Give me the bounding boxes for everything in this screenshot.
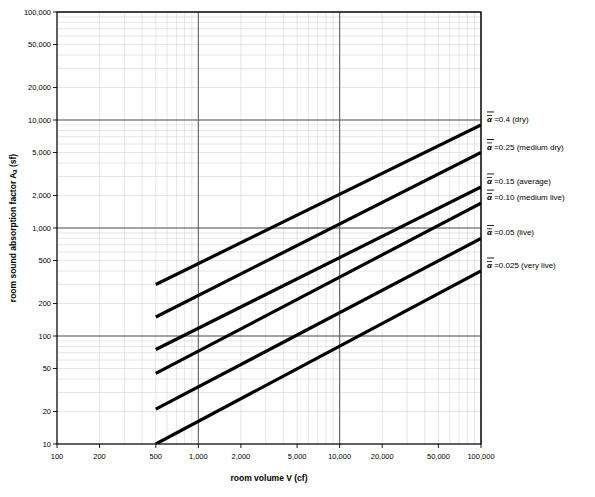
y-tick-label: 50,000 — [28, 40, 51, 49]
y-tick-label: 10 — [43, 440, 51, 449]
y-tick-label: 200 — [38, 299, 51, 308]
x-tick-label: 20,000 — [371, 452, 394, 461]
series-label-alpha-0.25-medium-dry: α =0.25 (medium dry) — [487, 140, 564, 152]
svg-text:α =0.4 (dry): α =0.4 (dry) — [487, 115, 529, 124]
y-axis-title: room sound absorption factor Aₐ (sf) — [8, 154, 18, 303]
svg-text:α =0.05 (live): α =0.05 (live) — [487, 228, 534, 237]
chart-container: 1002005001,0002,0005,00010,00020,00050,0… — [0, 0, 595, 497]
x-tick-label: 500 — [150, 452, 163, 461]
y-tick-label: 20,000 — [28, 83, 51, 92]
y-tick-label: 50 — [43, 364, 51, 373]
series-label-alpha-0.10-medium-live: α =0.10 (medium live) — [487, 190, 565, 202]
series-label-alpha-0.05-live: α =0.05 (live) — [487, 225, 534, 237]
x-tick-label: 2,000 — [231, 452, 250, 461]
x-tick-label: 200 — [93, 452, 106, 461]
x-tick-label: 100 — [51, 452, 64, 461]
svg-text:α =0.025 (very live): α =0.025 (very live) — [487, 261, 556, 270]
y-tick-label: 100 — [38, 332, 51, 341]
y-tick-label: 10,000 — [28, 116, 51, 125]
y-tick-label: 5,000 — [32, 148, 51, 157]
svg-text:α =0.15 (average): α =0.15 (average) — [487, 177, 551, 186]
x-tick-label: 10,000 — [328, 452, 351, 461]
absorption-factor-chart: 1002005001,0002,0005,00010,00020,00050,0… — [0, 0, 595, 497]
x-tick-label: 5,000 — [288, 452, 307, 461]
y-axis-ticks: 1020501002005001,0002,0005,00010,00020,0… — [24, 8, 57, 449]
svg-text:α =0.25 (medium dry): α =0.25 (medium dry) — [487, 143, 564, 152]
series-legend-labels: α =0.4 (dry)α =0.25 (medium dry)α =0.15 … — [487, 112, 565, 270]
series-label-alpha-0.4-dry: α =0.4 (dry) — [487, 112, 529, 124]
y-tick-label: 500 — [38, 256, 51, 265]
x-tick-label: 100,000 — [467, 452, 494, 461]
x-axis-ticks: 1002005001,0002,0005,00010,00020,00050,0… — [51, 444, 495, 461]
series-label-alpha-0.025-very-live: α =0.025 (very live) — [487, 258, 556, 270]
series-label-alpha-0.15-average: α =0.15 (average) — [487, 174, 551, 186]
y-tick-label: 1,000 — [32, 224, 51, 233]
x-axis-title: room volume V (cf) — [231, 473, 308, 483]
y-tick-label: 2,000 — [32, 191, 51, 200]
x-tick-label: 50,000 — [427, 452, 450, 461]
y-tick-label: 100,000 — [24, 8, 51, 17]
y-tick-label: 20 — [43, 407, 51, 416]
svg-text:α =0.10 (medium live): α =0.10 (medium live) — [487, 193, 565, 202]
x-tick-label: 1,000 — [189, 452, 208, 461]
